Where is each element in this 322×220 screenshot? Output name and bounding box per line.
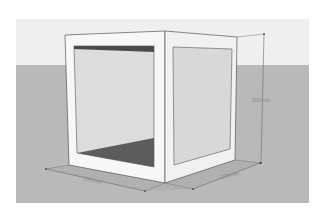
- box-model-scene: 200mm 200mm 200mm: [0, 0, 322, 220]
- inner-back-wall: [74, 46, 154, 153]
- right-inner-panel: [173, 47, 232, 165]
- height-dimension-label: 200mm: [252, 97, 271, 103]
- right-face: [165, 31, 237, 183]
- front-face: [65, 31, 165, 183]
